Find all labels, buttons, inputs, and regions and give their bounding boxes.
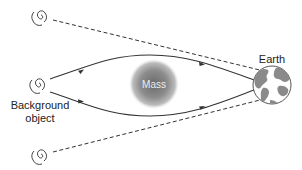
background-object-label-line2: object [25,112,54,124]
mass-label: Mass [142,79,166,90]
arrow-upper-left [78,69,85,74]
earth-globe-icon [253,66,291,104]
gravitational-lensing-diagram: Mass Background object Earth [0,0,302,170]
background-object-label-line1: Background [11,99,70,111]
earth-label: Earth [259,53,285,65]
lensing-mass: Mass [129,59,179,109]
spiral-galaxy-icon [32,150,47,165]
spiral-galaxy-icon [32,11,47,26]
spiral-galaxy-icon [30,79,45,94]
